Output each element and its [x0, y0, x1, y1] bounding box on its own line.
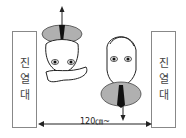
dimension-label: 120㎝~ [40, 115, 150, 126]
person-upside-down [42, 6, 87, 82]
person-upright [101, 37, 141, 121]
